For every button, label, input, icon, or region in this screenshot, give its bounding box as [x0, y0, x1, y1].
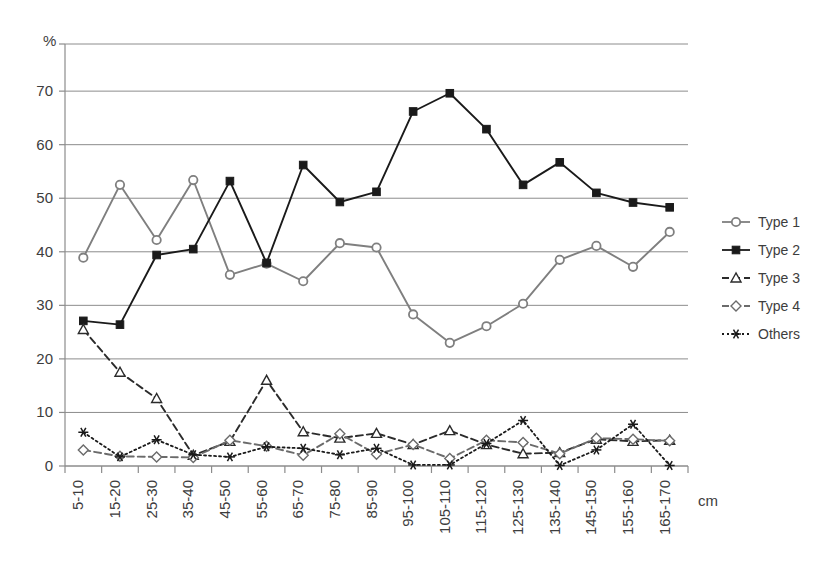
x-axis-unit-label: cm — [698, 492, 718, 509]
legend-group: Type 1Type 2Type 3Type 4Others — [722, 214, 800, 342]
x-tick-label-105-110: 105-110 — [436, 480, 453, 534]
x-tick-label-25-30: 25-30 — [143, 480, 160, 518]
data-point-marker — [78, 324, 88, 333]
data-point-marker — [372, 428, 382, 437]
legend-item-others[interactable]: Others — [722, 326, 800, 342]
legend-label: Type 4 — [758, 298, 800, 314]
legend-item-type-3[interactable]: Type 3 — [722, 270, 800, 286]
data-point-marker — [519, 300, 527, 308]
data-point-marker — [298, 450, 308, 460]
data-point-marker — [262, 375, 272, 384]
data-point-marker — [446, 89, 454, 97]
legend-label: Type 2 — [758, 242, 800, 258]
data-point-marker — [593, 189, 601, 197]
series-type-3 — [78, 324, 674, 459]
data-point-marker — [336, 198, 344, 206]
data-point-marker — [666, 204, 674, 212]
series-type-2 — [80, 89, 674, 328]
data-point-marker — [336, 239, 344, 247]
y-tick-label-20: 20 — [36, 350, 53, 367]
y-tick-labels-group: 010203040506070 — [36, 82, 53, 474]
data-point-marker — [665, 228, 673, 236]
data-point-marker — [263, 259, 271, 267]
data-point-marker — [299, 161, 307, 169]
y-tick-label-60: 60 — [36, 136, 53, 153]
legend-label: Others — [758, 326, 800, 342]
data-point-marker — [372, 449, 382, 459]
x-tick-label-165-170: 165-170 — [656, 480, 673, 535]
x-tick-label-155-160: 155-160 — [619, 480, 636, 535]
data-point-marker — [152, 394, 162, 403]
series-line — [83, 93, 669, 324]
data-point-marker — [629, 199, 637, 207]
data-point-marker — [518, 437, 528, 447]
x-tick-label-115-120: 115-120 — [472, 480, 489, 534]
y-tick-label-40: 40 — [36, 243, 53, 260]
data-point-marker — [152, 236, 160, 244]
data-point-marker — [299, 277, 307, 285]
data-point-marker — [372, 243, 380, 251]
x-tick-label-5-10: 5-10 — [69, 480, 86, 510]
y-tick-label-0: 0 — [45, 457, 53, 474]
data-point-marker — [373, 188, 381, 196]
chart-container: 010203040506070 5-1015-2025-3035-4045-50… — [0, 0, 826, 574]
data-point-marker — [78, 445, 88, 455]
data-point-marker — [556, 159, 564, 167]
y-tick-label-10: 10 — [36, 403, 53, 420]
data-point-marker — [226, 177, 234, 185]
series-type-1 — [79, 176, 674, 347]
data-point-marker — [79, 253, 87, 261]
data-point-marker — [226, 271, 234, 279]
y-tick-label-50: 50 — [36, 189, 53, 206]
x-tick-label-85-90: 85-90 — [363, 480, 380, 518]
data-point-marker — [731, 301, 741, 311]
data-point-marker — [409, 108, 417, 116]
x-tick-label-55-60: 55-60 — [253, 480, 270, 518]
x-tick-label-65-70: 65-70 — [289, 480, 306, 518]
y-axis-unit-label: % — [43, 32, 56, 49]
x-tick-label-75-80: 75-80 — [326, 480, 343, 518]
data-point-marker — [189, 245, 197, 253]
data-point-marker — [731, 330, 741, 339]
data-point-marker — [483, 125, 491, 133]
data-point-marker — [446, 339, 454, 347]
data-point-marker — [556, 256, 564, 264]
data-point-marker — [519, 181, 527, 189]
x-tick-label-45-50: 45-50 — [216, 480, 233, 518]
legend-item-type-2[interactable]: Type 2 — [722, 242, 800, 258]
x-tick-label-145-150: 145-150 — [582, 480, 599, 535]
data-point-marker — [629, 263, 637, 271]
data-point-marker — [152, 452, 162, 462]
y-tick-label-30: 30 — [36, 296, 53, 313]
data-point-marker — [225, 453, 235, 462]
legend-label: Type 3 — [758, 270, 800, 286]
x-tick-label-15-20: 15-20 — [106, 480, 123, 518]
data-point-marker — [732, 218, 740, 226]
legend-item-type-1[interactable]: Type 1 — [722, 214, 800, 230]
x-tick-labels-group: 5-1015-2025-3035-4045-5055-6065-7075-808… — [69, 480, 672, 535]
data-point-marker — [189, 176, 197, 184]
data-point-marker — [335, 450, 345, 459]
data-point-marker — [409, 310, 417, 318]
data-point-marker — [592, 242, 600, 250]
data-point-marker — [153, 251, 161, 259]
data-point-marker — [152, 435, 162, 444]
series-line — [83, 180, 669, 343]
x-tick-label-135-140: 135-140 — [546, 480, 563, 535]
x-tick-label-35-40: 35-40 — [179, 480, 196, 518]
data-point-marker — [408, 461, 418, 470]
data-point-marker — [732, 246, 740, 254]
data-point-marker — [482, 322, 490, 330]
data-point-marker — [116, 181, 124, 189]
data-point-marker — [116, 321, 124, 329]
x-tick-label-125-130: 125-130 — [509, 480, 526, 535]
y-tick-label-70: 70 — [36, 82, 53, 99]
data-point-marker — [445, 426, 455, 435]
legend-item-type-4[interactable]: Type 4 — [722, 298, 800, 314]
line-chart: 010203040506070 5-1015-2025-3035-4045-50… — [0, 0, 826, 574]
legend-label: Type 1 — [758, 214, 800, 230]
x-tick-label-95-100: 95-100 — [399, 480, 416, 527]
